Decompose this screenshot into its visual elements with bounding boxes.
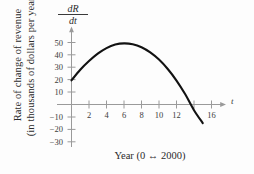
figure-container: Rate of change of revenue (in thousands … xyxy=(0,0,254,174)
x-tick-label: 4 xyxy=(104,110,109,120)
x-tick-label: 12 xyxy=(172,110,181,120)
x-tick-label: 8 xyxy=(139,110,143,120)
x-tick-label: 2 xyxy=(87,110,91,120)
y-tick-label: −30 xyxy=(50,137,63,147)
y-tick-label: 30 xyxy=(55,62,64,72)
y-tick-label: 20 xyxy=(55,75,64,85)
y-tick-label: −20 xyxy=(50,124,63,134)
chart-caption: Year (0 ↔ 2000) xyxy=(70,150,230,161)
y-tick-label: 10 xyxy=(55,87,64,97)
y-tick-label: 40 xyxy=(55,50,64,60)
x-axis-variable-label: t xyxy=(231,96,234,106)
x-tick-label: 10 xyxy=(155,110,164,120)
data-curve xyxy=(72,43,203,123)
y-tick-labels: 50 40 30 20 10 −10 −20 −30 xyxy=(50,38,63,147)
y-tick-label: 50 xyxy=(55,38,64,48)
x-tick-label: 16 xyxy=(207,110,216,120)
plot-area: t 50 40 30 20 10 −10 −20 −30 xyxy=(0,0,254,174)
x-axis: t xyxy=(57,96,234,107)
x-tick-label: 6 xyxy=(122,110,126,120)
y-tick-label: −10 xyxy=(50,112,63,122)
